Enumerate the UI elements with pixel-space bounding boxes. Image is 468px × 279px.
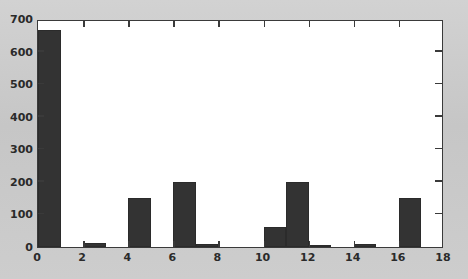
x-tick-mark bbox=[173, 21, 174, 27]
y-tick-label: 300 bbox=[0, 143, 33, 156]
x-tick-label: 6 bbox=[152, 251, 192, 264]
x-tick-label: 8 bbox=[197, 251, 237, 264]
y-tick-label: 400 bbox=[0, 111, 33, 124]
chart-figure: 0100200300400500600700 024681012141618 bbox=[0, 0, 468, 279]
x-tick-mark bbox=[173, 241, 174, 247]
bar bbox=[173, 182, 196, 247]
bar bbox=[399, 198, 422, 247]
x-tick-label: 12 bbox=[288, 251, 328, 264]
x-tick-label: 2 bbox=[62, 251, 102, 264]
bar bbox=[128, 198, 151, 247]
x-tick-mark bbox=[83, 21, 84, 27]
x-tick-label: 4 bbox=[107, 251, 147, 264]
x-tick-mark bbox=[309, 241, 310, 247]
y-tick-mark bbox=[38, 180, 44, 181]
x-tick-mark bbox=[218, 241, 219, 247]
x-tick-mark bbox=[309, 21, 310, 27]
y-tick-mark bbox=[435, 50, 442, 51]
bar bbox=[38, 30, 61, 247]
bar bbox=[264, 227, 287, 247]
y-tick-mark bbox=[435, 115, 442, 116]
y-tick-label: 200 bbox=[0, 176, 33, 189]
x-tick-mark bbox=[399, 241, 400, 247]
y-tick-label: 700 bbox=[0, 13, 33, 26]
y-tick-mark bbox=[38, 148, 44, 149]
y-tick-mark bbox=[38, 213, 44, 214]
bar bbox=[309, 245, 332, 248]
x-tick-mark bbox=[264, 241, 265, 247]
x-tick-mark bbox=[128, 241, 129, 247]
bar bbox=[354, 244, 377, 247]
x-tick-mark bbox=[218, 21, 219, 27]
x-tick-label: 16 bbox=[378, 251, 418, 264]
y-tick-mark bbox=[38, 50, 44, 51]
x-tick-label: 14 bbox=[333, 251, 373, 264]
x-tick-label: 18 bbox=[423, 251, 463, 264]
x-tick-mark bbox=[354, 241, 355, 247]
x-tick-label: 10 bbox=[243, 251, 283, 264]
y-tick-mark bbox=[435, 213, 442, 214]
bar bbox=[286, 182, 309, 247]
y-tick-mark bbox=[38, 115, 44, 116]
bar bbox=[83, 243, 106, 247]
y-tick-mark bbox=[435, 83, 442, 84]
x-tick-mark bbox=[264, 21, 265, 27]
y-tick-mark bbox=[435, 148, 442, 149]
x-tick-label: 0 bbox=[17, 251, 57, 264]
x-tick-mark bbox=[83, 241, 84, 247]
y-tick-label: 500 bbox=[0, 78, 33, 91]
y-tick-mark bbox=[38, 83, 44, 84]
y-tick-label: 100 bbox=[0, 208, 33, 221]
y-tick-label: 600 bbox=[0, 46, 33, 59]
x-tick-mark bbox=[399, 21, 400, 27]
x-tick-mark bbox=[128, 21, 129, 27]
bar bbox=[196, 244, 219, 247]
y-tick-mark bbox=[435, 180, 442, 181]
x-tick-mark bbox=[354, 21, 355, 27]
plot-area bbox=[37, 20, 443, 248]
